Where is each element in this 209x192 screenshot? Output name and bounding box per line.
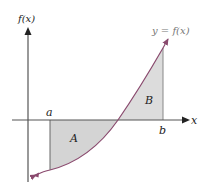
region-a-fill xyxy=(50,120,118,170)
point-b-label: b xyxy=(159,124,166,137)
region-a-label: A xyxy=(69,132,78,145)
point-a-label: a xyxy=(46,106,53,119)
curve-left-arrow-icon xyxy=(33,173,39,178)
y-axis-label: f(x) xyxy=(17,13,35,24)
area-between-curve-diagram: f(x) x y = f(x) a b A B xyxy=(0,0,209,192)
region-b-label: B xyxy=(144,94,153,107)
curve-label: y = f(x) xyxy=(151,25,190,36)
x-axis-label: x xyxy=(191,114,198,127)
